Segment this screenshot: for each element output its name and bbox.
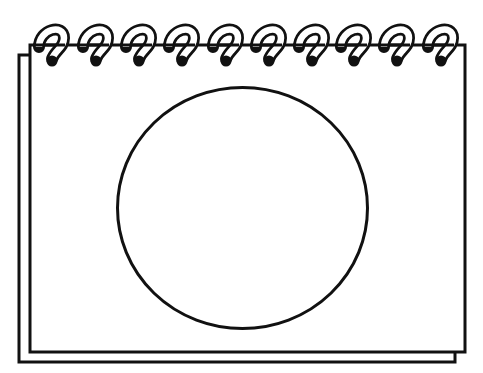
binding-hole-icon [307,56,318,67]
binding-hole-icon [436,56,447,67]
binding-hole-icon [91,56,102,67]
binding-hole-icon [47,56,58,67]
binding-hole-icon [177,56,188,67]
notepad-drawing [0,0,483,373]
binding-hole-icon [392,56,403,67]
notepad-illustration [0,0,483,373]
binding-hole-icon [349,56,360,67]
binding-hole-icon [134,56,145,67]
front-page [30,45,465,352]
binding-hole-icon [264,56,275,67]
binding-hole-icon [221,56,232,67]
